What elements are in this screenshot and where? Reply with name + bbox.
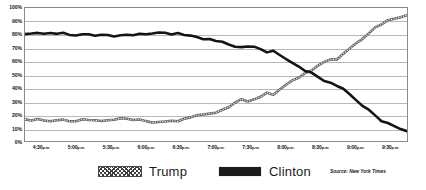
plot-wrapper: 100%90%80%70%60%50%40%30%20%10%0% 4:30p.… bbox=[0, 0, 426, 150]
y-axis-tick: 100% bbox=[9, 4, 22, 10]
x-axis: 4:30p.m.5:00p.m.5:30p.m.6:00p.m.6:30p.m.… bbox=[0, 144, 426, 156]
y-axis-tick: 40% bbox=[12, 85, 22, 91]
x-axis-tick: 8:30p.m. bbox=[312, 144, 329, 151]
trump-swatch-icon bbox=[98, 166, 142, 177]
y-axis-tick: 10% bbox=[12, 126, 22, 132]
x-axis-tick: 5:00p.m. bbox=[68, 144, 85, 151]
y-axis-tick: 90% bbox=[12, 18, 22, 24]
source-note: Source: New York Times bbox=[330, 169, 386, 174]
x-axis-tick: 9:30p.m. bbox=[382, 144, 399, 151]
y-axis-tick: 30% bbox=[12, 99, 22, 105]
y-axis: 100%90%80%70%60%50%40%30%20%10%0% bbox=[0, 0, 23, 150]
x-axis-tick: 7:00p.m. bbox=[207, 144, 224, 151]
y-axis-tick: 50% bbox=[12, 72, 22, 78]
clinton-swatch-icon bbox=[218, 166, 262, 177]
legend-label-clinton: Clinton bbox=[269, 165, 311, 178]
x-axis-tick: 4:30p.m. bbox=[33, 144, 50, 151]
plot-area bbox=[24, 7, 408, 142]
x-axis-tick: 6:00p.m. bbox=[138, 144, 155, 151]
x-axis-tick: 7:30p.m. bbox=[242, 144, 259, 151]
series-lines bbox=[25, 8, 407, 141]
legend-item-trump[interactable]: Trump bbox=[98, 165, 187, 178]
trump-line-texture bbox=[25, 15, 407, 122]
y-axis-tick: 60% bbox=[12, 58, 22, 64]
legend-label-trump: Trump bbox=[149, 165, 187, 178]
y-axis-tick: 70% bbox=[12, 45, 22, 51]
x-axis-tick: 5:30p.m. bbox=[103, 144, 120, 151]
x-axis-tick: 8:00p.m. bbox=[277, 144, 294, 151]
election-probability-chart: 100%90%80%70%60%50%40%30%20%10%0% 4:30p.… bbox=[0, 0, 426, 190]
y-axis-tick: 80% bbox=[12, 31, 22, 37]
x-axis-tick: 9:00p.m. bbox=[347, 144, 364, 151]
legend-item-clinton[interactable]: Clinton bbox=[218, 165, 311, 178]
x-axis-tick: 6:30p.m. bbox=[172, 144, 189, 151]
trump-line bbox=[25, 15, 407, 122]
y-axis-tick: 20% bbox=[12, 112, 22, 118]
chart-legend: Trump Clinton Source: New York Times bbox=[0, 163, 426, 190]
